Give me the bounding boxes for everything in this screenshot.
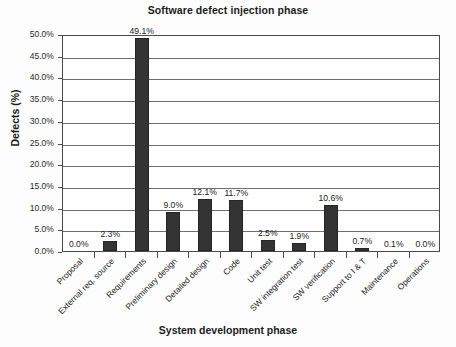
y-tick-label: 45.0% — [10, 51, 54, 61]
y-tick-label: 30.0% — [10, 116, 54, 126]
bar-slot: 0.0% — [410, 36, 442, 251]
y-tick-label: 0.0% — [10, 246, 54, 256]
bar-value-label: 10.6% — [319, 193, 343, 203]
x-tick-label: Proposal — [54, 256, 84, 286]
chart-title: Software defect injection phase — [0, 4, 456, 16]
plot-area: 0.0%2.3%49.1%9.0%12.1%11.7%2.5%1.9%10.6%… — [62, 35, 440, 252]
y-tick-label: 20.0% — [10, 159, 54, 169]
x-tick-label: Unit test — [245, 256, 274, 285]
bar-slot: 0.0% — [63, 36, 95, 251]
bar-slot: 1.9% — [284, 36, 316, 251]
y-tick-label: 35.0% — [10, 94, 54, 104]
bar-slot: 2.5% — [252, 36, 284, 251]
bar-value-label: 11.7% — [224, 188, 248, 198]
x-axis-title: System development phase — [0, 324, 456, 336]
bar-slot: 2.3% — [95, 36, 127, 251]
bar-value-label: 2.5% — [258, 228, 278, 238]
y-tick-label: 5.0% — [10, 224, 54, 234]
bar-series: 0.0%2.3%49.1%9.0%12.1%11.7%2.5%1.9%10.6%… — [63, 36, 439, 251]
y-tick-label: 40.0% — [10, 72, 54, 82]
bar-slot: 0.7% — [347, 36, 379, 251]
x-tick-label: External req. source — [56, 256, 116, 316]
bar-value-label: 12.1% — [193, 187, 217, 197]
y-tick-label: 15.0% — [10, 181, 54, 191]
y-tick-label: 25.0% — [10, 138, 54, 148]
y-tick-label: 50.0% — [10, 29, 54, 39]
y-tick-mark — [58, 252, 62, 253]
bar-value-label: 49.1% — [130, 26, 154, 36]
bar-slot: 9.0% — [158, 36, 190, 251]
bar-chart: Software defect injection phase Defects … — [0, 0, 456, 347]
x-tick-label: Code — [221, 256, 242, 277]
y-tick-label: 10.0% — [10, 203, 54, 213]
